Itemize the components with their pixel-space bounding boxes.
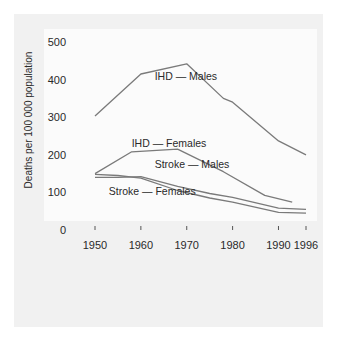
y-tick-label: 500 <box>48 36 66 48</box>
y-tick-label: 0 <box>60 224 66 236</box>
y-tick-label: 100 <box>48 186 66 198</box>
x-tick-label: 1980 <box>220 239 244 251</box>
line-chart: 0100200300400500 19501960197019801990199… <box>0 0 338 337</box>
series-label-ihd-females: IHD — Females <box>132 137 207 149</box>
x-tick-label: 1960 <box>129 239 153 251</box>
x-axis: 195019601970198019901996 <box>83 226 318 251</box>
y-axis-label: Deaths per 100 000 population <box>23 52 34 189</box>
x-tick-label: 1996 <box>294 239 318 251</box>
y-tick-label: 200 <box>48 149 66 161</box>
y-tick-label: 400 <box>48 74 66 86</box>
x-tick-label: 1970 <box>174 239 198 251</box>
series-label-stroke-females: Stroke — Females <box>109 185 196 197</box>
x-tick-label: 1990 <box>266 239 290 251</box>
y-axis: 0100200300400500 <box>48 36 66 236</box>
y-tick-label: 300 <box>48 111 66 123</box>
x-tick-label: 1950 <box>83 239 107 251</box>
series-label-stroke-males: Stroke — Males <box>155 158 230 170</box>
series-label-ihd-males: IHD — Males <box>155 70 217 82</box>
series-labels: IHD — MalesIHD — FemalesStroke — MalesSt… <box>109 70 230 198</box>
